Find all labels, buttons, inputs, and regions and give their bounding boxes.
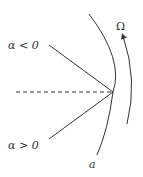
rotation-arrow: [123, 36, 132, 124]
label-radius: a: [89, 158, 96, 171]
diagram-canvas: α < 0 α > 0 Ω a: [0, 0, 143, 177]
label-alpha-negative: α < 0: [8, 39, 39, 52]
upper-ray: [49, 45, 113, 92]
lower-ray: [49, 92, 113, 139]
label-alpha-positive: α > 0: [8, 139, 39, 152]
label-omega: Ω: [116, 20, 125, 33]
